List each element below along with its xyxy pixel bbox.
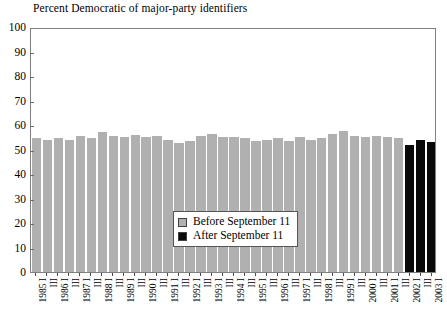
bar (141, 137, 150, 272)
bar (87, 138, 96, 272)
bar (218, 137, 227, 272)
bar (394, 138, 403, 272)
y-tick-label: 0 (20, 267, 26, 279)
y-tick-label: 20 (15, 218, 27, 230)
legend-item-after: After September 11 (178, 229, 290, 243)
bar (196, 136, 205, 272)
y-tick-label: 30 (15, 194, 27, 206)
bar (427, 142, 436, 272)
x-tick-mark (156, 273, 157, 276)
x-tick-mark (101, 273, 102, 276)
y-tick-label: 40 (15, 169, 27, 181)
x-tick-label: III (314, 278, 324, 288)
x-tick-mark (145, 273, 146, 276)
bar (185, 141, 194, 272)
x-tick-mark (387, 273, 388, 276)
bar (262, 140, 271, 272)
x-tick-label: III (248, 278, 258, 288)
x-tick-label: 1986 I (61, 278, 71, 303)
legend-label-after: After September 11 (193, 230, 283, 242)
x-tick-mark (420, 273, 421, 276)
x-axis: 1985 IIII1986 IIII1987 IIII1988 IIII1989… (30, 273, 436, 328)
x-tick-mark (321, 273, 322, 276)
chart-container: Percent Democratic of major-party identi… (0, 0, 447, 328)
x-tick-label: III (138, 278, 148, 288)
legend-swatch-before-icon (178, 218, 187, 227)
bar (405, 145, 414, 272)
x-tick-mark (46, 273, 47, 276)
x-tick-label: 1985 I (39, 278, 49, 303)
x-tick-label: III (402, 278, 412, 288)
x-tick-mark (376, 273, 377, 276)
y-tick-mark (30, 151, 34, 152)
x-tick-mark (222, 273, 223, 276)
y-tick-label: 70 (15, 96, 27, 108)
bar (109, 136, 118, 272)
y-tick-label: 90 (15, 47, 27, 59)
x-tick-label: III (424, 278, 434, 288)
x-tick-mark (365, 273, 366, 276)
x-tick-mark (431, 273, 432, 276)
x-tick-mark (332, 273, 333, 276)
x-tick-label: III (50, 278, 60, 288)
bar (65, 140, 74, 272)
x-tick-label: III (336, 278, 346, 288)
bar (76, 136, 85, 272)
x-tick-label: III (94, 278, 104, 288)
x-tick-mark (112, 273, 113, 276)
x-tick-mark (90, 273, 91, 276)
x-tick-mark (409, 273, 410, 276)
bar (295, 137, 304, 272)
x-tick-mark (310, 273, 311, 276)
bar (328, 134, 337, 272)
y-tick-mark (30, 53, 34, 54)
x-tick-label: III (292, 278, 302, 288)
chart-legend: Before September 11 After September 11 (173, 211, 298, 247)
x-tick-mark (233, 273, 234, 276)
y-tick-label: 80 (15, 71, 27, 83)
legend-swatch-after-icon (178, 232, 187, 241)
legend-label-before: Before September 11 (193, 216, 290, 228)
y-tick-mark (30, 77, 34, 78)
y-tick-mark (30, 200, 34, 201)
x-tick-label: 1989 I (127, 278, 137, 303)
bar (163, 140, 172, 272)
x-tick-label: 1988 I (105, 278, 115, 303)
y-tick-label: 10 (15, 243, 27, 255)
bar (98, 132, 107, 272)
x-tick-mark (178, 273, 179, 276)
bar (229, 137, 238, 272)
y-axis: 0102030405060708090100 (0, 28, 30, 273)
x-tick-mark (277, 273, 278, 276)
x-tick-mark (123, 273, 124, 276)
bar (416, 140, 425, 272)
x-tick-mark (343, 273, 344, 276)
x-tick-mark (35, 273, 36, 276)
x-tick-mark (167, 273, 168, 276)
x-tick-mark (200, 273, 201, 276)
x-tick-label: III (380, 278, 390, 288)
x-tick-label: 1987 I (83, 278, 93, 303)
y-tick-mark (30, 175, 34, 176)
x-tick-mark (244, 273, 245, 276)
bar (383, 137, 392, 272)
x-tick-label: III (116, 278, 126, 288)
y-tick-mark (30, 224, 34, 225)
bar (120, 137, 129, 272)
bar (32, 138, 41, 272)
x-tick-label: 2003 I (435, 278, 445, 303)
x-tick-label: 1992 I (193, 278, 203, 303)
bar (152, 136, 161, 272)
x-tick-label: 2002 I (413, 278, 423, 303)
bar (54, 138, 63, 272)
x-tick-label: 1997 I (303, 278, 313, 303)
x-tick-mark (79, 273, 80, 276)
x-tick-label: III (160, 278, 170, 288)
x-tick-label: 1991 I (171, 278, 181, 303)
bar (339, 131, 348, 272)
x-tick-mark (68, 273, 69, 276)
x-tick-label: III (270, 278, 280, 288)
x-tick-mark (299, 273, 300, 276)
x-tick-label: 1994 I (237, 278, 247, 303)
x-tick-label: 1993 I (215, 278, 225, 303)
